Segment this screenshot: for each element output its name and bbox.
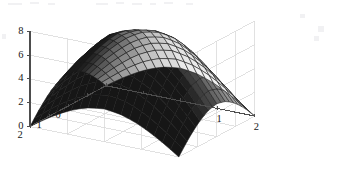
x-axis-tick-label: -1 <box>140 98 149 109</box>
z-axis-tick-label: 2 <box>18 96 23 107</box>
scan-speckle <box>314 36 319 41</box>
scan-speckle <box>164 2 173 4</box>
surface-plot-figure: 86420210-1-2-2-1012 <box>0 0 347 195</box>
x-axis-tick-label: 2 <box>254 121 259 132</box>
scan-speckle <box>186 3 193 5</box>
z-axis-tick-label: 6 <box>18 49 23 60</box>
scan-speckle <box>8 3 22 5</box>
scan-speckle <box>2 34 6 39</box>
scan-speckle <box>30 2 39 4</box>
x-axis-tick-label: -2 <box>103 90 112 101</box>
scan-speckle <box>132 3 142 5</box>
scan-speckle <box>300 14 305 18</box>
x-axis-tick-label: 1 <box>216 113 221 124</box>
scan-speckle <box>48 3 55 5</box>
y-axis-tick-label: -1 <box>73 98 82 109</box>
y-axis-tick-label: 2 <box>17 129 22 140</box>
z-axis-tick-label: 8 <box>18 25 23 36</box>
scan-speckle <box>116 2 124 4</box>
scan-speckle <box>96 3 108 5</box>
z-axis-tick-label: 4 <box>18 72 24 83</box>
x-axis-tick-label: 0 <box>179 105 184 116</box>
y-axis-tick-label: 0 <box>55 109 60 120</box>
y-axis-tick-label: 1 <box>36 119 41 130</box>
plot-canvas: 86420210-1-2-2-1012 <box>0 0 347 195</box>
y-axis-tick-label: -2 <box>92 88 101 99</box>
scan-speckle <box>318 26 324 32</box>
scan-speckle <box>150 3 156 5</box>
